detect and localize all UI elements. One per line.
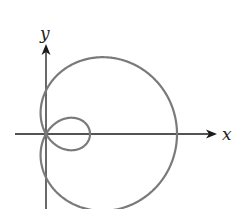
x-axis-label: x [222,124,232,144]
limacon-curve [41,57,177,209]
y-axis-label: y [39,23,50,43]
limacon-diagram: x y [0,0,250,209]
